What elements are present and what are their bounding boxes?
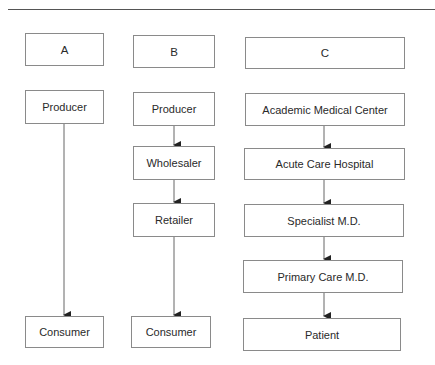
node-b-wholesaler: Wholesaler (133, 146, 215, 180)
node-c-acute-care-hospital: Acute Care Hospital (244, 148, 405, 180)
column-a-header: A (25, 33, 104, 66)
node-b-consumer: Consumer (131, 316, 211, 348)
node-b-producer: Producer (133, 92, 215, 126)
node-a-consumer: Consumer (25, 316, 104, 348)
node-b-retailer: Retailer (133, 203, 215, 237)
node-c-patient: Patient (243, 318, 401, 351)
node-c-primary-care-md: Primary Care M.D. (243, 260, 403, 293)
node-c-academic-medical-center: Academic Medical Center (245, 93, 405, 126)
column-b-header: B (133, 35, 215, 68)
node-c-specialist-md: Specialist M.D. (244, 204, 404, 237)
node-a-producer: Producer (25, 90, 104, 124)
column-c-header: C (245, 37, 405, 69)
